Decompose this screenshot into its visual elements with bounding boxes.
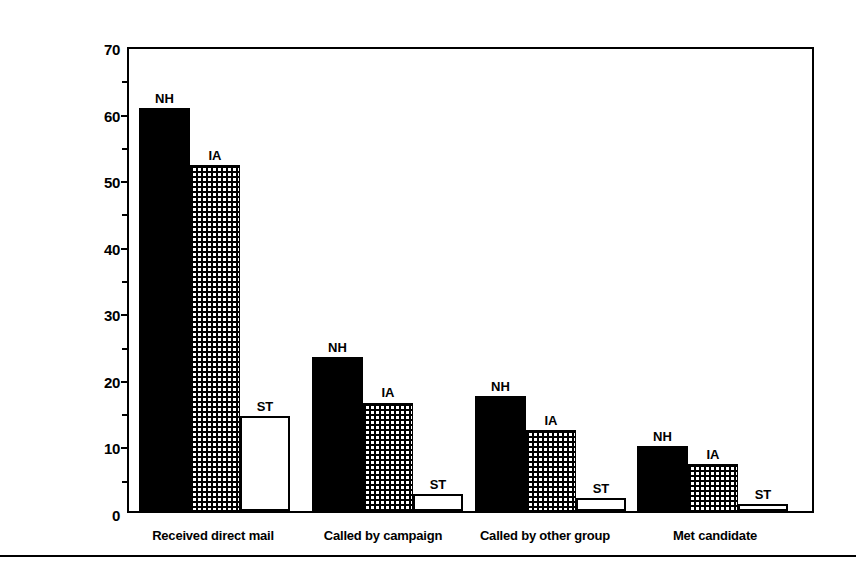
bar-ia-group-4 — [688, 464, 738, 511]
y-tick-mark — [121, 314, 129, 316]
y-tick-label: 70 — [104, 41, 120, 58]
y-tick-label: 40 — [104, 240, 120, 257]
y-tick-mark-minor — [122, 481, 129, 483]
bar-ia-group-3 — [526, 430, 576, 511]
bar-st-group-3 — [576, 498, 626, 511]
y-tick-label: 50 — [104, 174, 120, 191]
bar-label-nh-group-4: NH — [653, 429, 672, 444]
bar-nh-group-3 — [475, 396, 526, 511]
bar-label-ia-group-3: IA — [545, 413, 558, 428]
y-tick-label: 10 — [104, 440, 120, 457]
bar-label-ia-group-4: IA — [707, 447, 720, 462]
y-tick-label: 60 — [104, 107, 120, 124]
bar-nh-group-4 — [637, 446, 688, 511]
bar-ia-group-1 — [190, 165, 240, 511]
y-tick-mark — [121, 381, 129, 383]
bar-st-group-2 — [413, 494, 463, 511]
bar-label-ia-group-1: IA — [209, 148, 222, 163]
bar-label-st-group-4: ST — [755, 487, 772, 502]
y-tick-mark — [121, 115, 129, 117]
bar-st-group-4 — [738, 504, 788, 511]
bar-ia-group-2 — [363, 403, 413, 512]
y-tick-mark-minor — [122, 281, 129, 283]
bar-label-nh-group-1: NH — [155, 91, 174, 106]
y-tick-label: 0 — [112, 507, 120, 524]
y-tick-mark — [121, 181, 129, 183]
bar-label-nh-group-2: NH — [328, 340, 347, 355]
y-tick-label: 20 — [104, 373, 120, 390]
bar-label-ia-group-2: IA — [382, 385, 395, 400]
y-tick-mark-minor — [122, 214, 129, 216]
bar-nh-group-1 — [139, 108, 190, 511]
y-tick-mark-minor — [122, 148, 129, 150]
bar-nh-group-2 — [312, 357, 363, 511]
bar-label-st-group-2: ST — [430, 477, 447, 492]
bar-chart-figure: Percent of residents 010203040506070 NHI… — [0, 0, 856, 586]
x-category-label-4: Met candidate — [673, 528, 757, 543]
y-tick-label: 30 — [104, 307, 120, 324]
footer-rule — [0, 555, 856, 557]
y-tick-mark-minor — [122, 81, 129, 83]
bar-label-st-group-1: ST — [257, 399, 274, 414]
y-tick-mark-minor — [122, 348, 129, 350]
x-category-label-2: Called by campaign — [324, 528, 443, 543]
y-tick-mark — [121, 248, 129, 250]
y-tick-mark — [121, 447, 129, 449]
bar-label-nh-group-3: NH — [491, 379, 510, 394]
x-category-label-1: Received direct mail — [152, 528, 274, 543]
x-category-label-3: Called by other group — [480, 528, 610, 543]
bar-label-st-group-3: ST — [593, 481, 610, 496]
bar-st-group-1 — [240, 416, 290, 511]
y-tick-mark-minor — [122, 414, 129, 416]
plot-area: Percent of residents 010203040506070 NHI… — [127, 47, 814, 513]
